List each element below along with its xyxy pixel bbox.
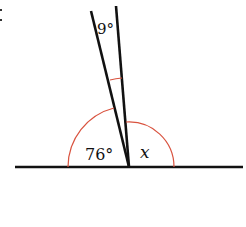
- label-76-degree: 76°: [85, 145, 113, 164]
- arc-9-degree: [110, 78, 122, 80]
- label-9-degree: 9°: [97, 20, 114, 38]
- angle-diagram: 9° 76° x: [0, 0, 246, 227]
- label-x: x: [140, 142, 150, 162]
- arc-x-angle: [126, 122, 174, 167]
